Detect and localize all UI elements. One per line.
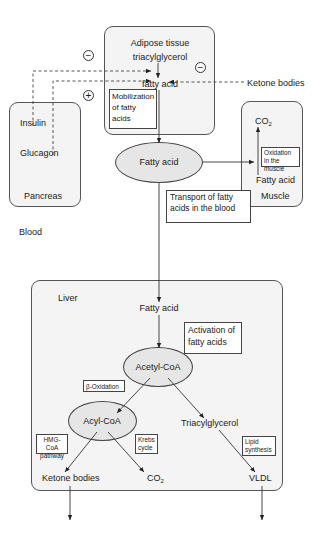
ketone-bodies-output-label: Ketone bodies bbox=[42, 473, 100, 484]
muscle-label: Muscle bbox=[261, 191, 290, 202]
acyl-coa-label: Acyl-CoA bbox=[83, 416, 121, 427]
liver-label: Liver bbox=[58, 293, 78, 304]
pancreas-label: Pancreas bbox=[24, 191, 62, 202]
blood-fatty-acid-label: Fatty acid bbox=[139, 157, 178, 168]
plus-sign-icon: + bbox=[83, 90, 94, 101]
vldl-output-label: VLDL bbox=[249, 473, 272, 484]
minus-sign-icon: − bbox=[83, 50, 94, 61]
muscle-co2-label: CO2 bbox=[255, 116, 272, 130]
muscle-fatty-acid-label: Fatty acid bbox=[256, 175, 295, 186]
liver-co2-label: CO2 bbox=[147, 473, 164, 487]
glucagon-label: Glucagon bbox=[20, 148, 59, 159]
krebs-note: Krebs cycle bbox=[135, 434, 158, 454]
activation-note: Activation of fatty acids bbox=[184, 322, 242, 354]
mobilization-note: Mobilization of fatty acids bbox=[109, 89, 157, 129]
blood-label: Blood bbox=[19, 227, 42, 238]
hmg-coa-note: HMG-CoA pathway bbox=[36, 434, 68, 454]
triacylglycerol-label: Triacylglycerol bbox=[181, 418, 238, 429]
lipid-synthesis-note: Lipid synthesis bbox=[242, 436, 276, 456]
adipose-triacylglycerol-label: triacylglycerol bbox=[133, 52, 188, 63]
insulin-label: Insulin bbox=[20, 118, 46, 129]
adipose-title: Adipose tissue bbox=[131, 38, 190, 49]
ketone-bodies-regulator-label: Ketone bodies bbox=[247, 78, 305, 89]
beta-oxidation-note: β-Oxidation bbox=[83, 380, 125, 392]
acetyl-coa-label: Acetyl-CoA bbox=[135, 362, 180, 373]
transport-note: Transport of fatty acids in the blood bbox=[166, 190, 251, 223]
muscle-oxidation-note: Oxidation in the muscle bbox=[261, 147, 300, 167]
liver-fatty-acid-label: Fatty acid bbox=[139, 303, 178, 314]
minus-sign-icon-ketone: − bbox=[195, 62, 206, 73]
